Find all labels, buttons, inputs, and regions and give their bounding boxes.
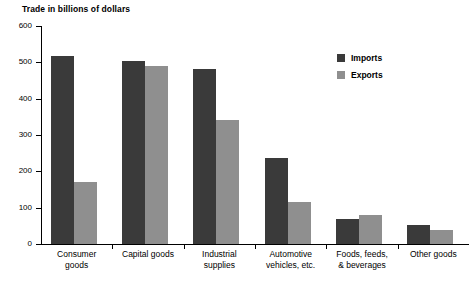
legend-item-imports: Imports: [337, 49, 383, 66]
bar-exports: [430, 230, 453, 244]
bar-imports: [122, 61, 145, 244]
bar-group: [407, 26, 453, 244]
y-tick-200: 200: [36, 171, 41, 172]
chart-title: Trade in billions of dollars: [22, 4, 130, 14]
bar-group: [51, 26, 97, 244]
y-tick-label-400: 400: [19, 94, 32, 103]
bar-exports: [216, 120, 239, 244]
bar-imports: [336, 219, 359, 244]
y-axis-line: [41, 26, 42, 245]
y-tick-500: 500: [36, 62, 41, 63]
y-tick-label-0: 0: [28, 239, 32, 248]
bar-imports: [407, 225, 430, 244]
x-axis-label: Consumer goods: [41, 249, 112, 270]
x-axis-label: Automotive vehicles, etc.: [255, 249, 326, 270]
x-axis-label: Other goods: [398, 249, 469, 260]
y-tick-label-300: 300: [19, 130, 32, 139]
legend-swatch-exports-icon: [337, 71, 345, 79]
y-tick-300: 300: [36, 135, 41, 136]
legend-label-imports: Imports: [351, 53, 382, 63]
legend-item-exports: Exports: [337, 66, 383, 83]
x-axis-label: Capital goods: [112, 249, 183, 260]
bar-exports: [288, 202, 311, 244]
y-tick-600: 600: [36, 26, 41, 27]
y-tick-0: 0: [36, 244, 41, 245]
bar-exports: [359, 215, 382, 244]
chart-legend: Imports Exports: [337, 49, 383, 83]
y-tick-label-200: 200: [19, 166, 32, 175]
bar-exports: [145, 66, 168, 244]
y-tick-100: 100: [36, 208, 41, 209]
bar-group: [193, 26, 239, 244]
bar-imports: [265, 158, 288, 244]
y-tick-label-500: 500: [19, 57, 32, 66]
x-axis-label: Industrial supplies: [184, 249, 255, 270]
legend-label-exports: Exports: [351, 70, 383, 80]
x-axis-label: Foods, feeds, & beverages: [326, 249, 397, 270]
plot-area: 0100200300400500600: [41, 26, 469, 245]
bar-imports: [193, 69, 216, 244]
legend-swatch-imports-icon: [337, 54, 345, 62]
bar-group: [122, 26, 168, 244]
y-tick-label-100: 100: [19, 203, 32, 212]
y-tick-label-600: 600: [19, 21, 32, 30]
bar-group: [265, 26, 311, 244]
bar-exports: [74, 182, 97, 244]
bar-chart: Trade in billions of dollars 01002003004…: [0, 0, 476, 282]
y-tick-400: 400: [36, 99, 41, 100]
bar-imports: [51, 56, 74, 244]
